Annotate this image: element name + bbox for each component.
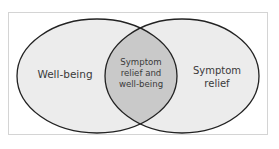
overlap-label-line1: Symptom	[114, 57, 168, 68]
well-being-label: Well-being	[34, 68, 96, 81]
symptom-relief-label-line2: relief	[186, 78, 248, 91]
overlap-label-line2: relief and	[114, 68, 168, 79]
overlap-label: Symptom relief and well-being	[114, 57, 168, 91]
symptom-relief-label: Symptom relief	[186, 65, 248, 90]
symptom-relief-label-line1: Symptom	[186, 65, 248, 78]
overlap-label-line3: well-being	[114, 79, 168, 90]
